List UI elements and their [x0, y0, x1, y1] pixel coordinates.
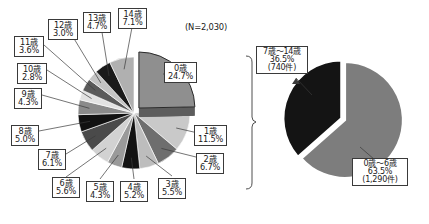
slice-callout-9: 9歳 4.3%	[14, 88, 42, 109]
slice-callout-6: 6歳 5.6%	[52, 177, 80, 198]
slice-callout-4-pct: 5.2%	[122, 191, 146, 199]
slice-callout-5-pct: 4.3%	[88, 191, 112, 199]
slice-callout-2-pct: 6.7%	[198, 163, 222, 171]
slice-callout-12: 12歳 3.0%	[48, 19, 78, 40]
slice-callout-11: 11歳 3.6%	[14, 36, 44, 57]
slice-callout-9-pct: 4.3%	[16, 98, 40, 106]
slice-callout-10: 10歳 2.8%	[17, 63, 47, 84]
slice-callout-12-pct: 3.0%	[50, 29, 76, 37]
group-callout-young-count: (1,290件)	[354, 176, 406, 184]
group-callout-old-count: (740件)	[258, 64, 306, 72]
sample-size-note: (N=2,030)	[185, 22, 227, 32]
slice-callout-4: 4歳 5.2%	[120, 181, 148, 202]
slice-callout-0-pct: 24.7%	[166, 72, 195, 80]
slice-callout-14-pct: 7.1%	[120, 18, 145, 26]
slice-callout-5: 5歳 4.3%	[86, 181, 114, 202]
group-callout-young: 0歳～6歳 63.5% (1,290件)	[352, 158, 408, 186]
slice-callout-10-pct: 2.8%	[19, 73, 45, 81]
slice-callout-13: 13歳 4.7%	[83, 12, 111, 33]
slice-callout-1: 1歳 11.5%	[194, 125, 227, 146]
slice-callout-7: 7歳 6.1%	[38, 149, 66, 170]
slice-callout-1-pct: 11.5%	[196, 135, 225, 143]
slice-callout-14: 14歳 7.1%	[118, 8, 147, 29]
slice-callout-11-pct: 3.6%	[16, 46, 42, 54]
slice-callout-3-pct: 5.5%	[160, 188, 184, 196]
slice-callout-6-pct: 5.6%	[54, 187, 78, 195]
slice-callout-7-pct: 6.1%	[40, 159, 64, 167]
slice-callout-8: 8歳 5.0%	[11, 125, 39, 146]
pie-slice-side	[139, 107, 195, 117]
slice-callout-2: 2歳 6.7%	[196, 153, 224, 174]
slice-callout-13-pct: 4.7%	[85, 22, 109, 30]
slice-callout-3: 3歳 5.5%	[158, 178, 186, 199]
slice-callout-0: 0歳 24.7%	[164, 62, 197, 83]
group-callout-old: 7歳～14歳 36.5% (740件)	[256, 46, 308, 74]
slice-callout-8-pct: 5.0%	[13, 135, 37, 143]
